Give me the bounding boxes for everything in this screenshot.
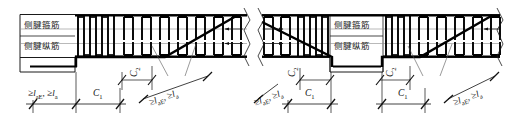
left-c2-dimension-label: C2 [130, 67, 141, 77]
left-anchorage-dimension-label: ≥laE, ≥la [28, 89, 58, 100]
right-c2-dimension-label-left: C2 [288, 67, 299, 77]
structural-rebar-detail-drawing: 侧腱箍筋 侧腱纵筋 ≥laE, ≥la C1 C2 ≥laE, ≥la 侧腱箍筋… [0, 0, 509, 123]
left-c1-dimension-label: C1 [93, 89, 103, 100]
right-c1-dimension-label-right: C1 [398, 89, 408, 100]
right-dense-stirrups-right [386, 16, 410, 56]
right-c2-dimension-label-right: C2 [386, 67, 397, 77]
right-dense-stirrups-left [298, 16, 328, 56]
left-dense-stirrups [78, 16, 114, 56]
right-c2-dimension-left [296, 68, 334, 90]
right-c1-dimension-label-left: C1 [305, 89, 315, 100]
right-stirrup-label: 侧腱箍筋 [334, 21, 370, 30]
left-diagonal-bent-rebar [76, 16, 237, 68]
left-longitudinal-label: 侧腱纵筋 [24, 42, 60, 51]
right-longitudinal-label: 侧腱纵筋 [334, 42, 370, 51]
left-stirrup-label: 侧腱箍筋 [24, 21, 60, 30]
right-spaced-stirrups-left [264, 17, 290, 55]
